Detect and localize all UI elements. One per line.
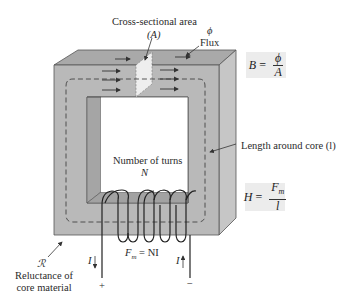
magnetic-circuit-diagram: Cross-sectional area (A) ϕ Flux B = ϕ A … [0, 0, 352, 295]
turns-symbol: N [141, 167, 148, 179]
formula-h-num-main: F [271, 180, 278, 194]
formula-b-fraction: ϕ A [273, 52, 283, 79]
plus-terminal: + [99, 280, 105, 292]
current-left-label: I [88, 255, 92, 267]
formula-b-lhs: B [249, 58, 256, 73]
formula-h-lhs: H [244, 190, 253, 205]
formula-b-denominator: A [274, 66, 281, 79]
mmf-label: Fm = NI [125, 247, 159, 263]
flux-density-formula: B = ϕ A [246, 52, 286, 78]
flux-symbol: ϕ [207, 25, 212, 37]
formula-h-numerator: Fm [269, 181, 286, 199]
core-side-face [219, 50, 236, 235]
mmf-rhs: = NI [139, 247, 159, 258]
reluctance-symbol: ℛ [37, 258, 45, 270]
reluctance-line1: Reluctance of [14, 270, 74, 282]
formula-h-denominator: l [276, 200, 279, 213]
length-label: Length around core (l) [241, 140, 336, 152]
current-right-label: I [176, 255, 180, 267]
formula-b-eq: = [259, 58, 266, 73]
window-inner-left [87, 97, 101, 203]
cross-section-symbol: (A) [147, 29, 160, 41]
formula-h-eq: = [255, 190, 262, 205]
formula-b-numerator: ϕ [273, 52, 283, 66]
formula-h-fraction: Fm l [269, 181, 286, 212]
turns-label: Number of turns [113, 155, 182, 167]
minus-terminal: − [187, 278, 193, 290]
cross-section-label: Cross-sectional area [112, 16, 197, 28]
mmf-sub: m [131, 253, 136, 261]
formula-h-num-sub: m [279, 188, 285, 197]
reluctance-pointer [48, 242, 62, 257]
flux-label: Flux [200, 37, 219, 49]
field-intensity-formula: H = Fm l [245, 183, 285, 211]
reluctance-line2: core material [14, 282, 74, 294]
